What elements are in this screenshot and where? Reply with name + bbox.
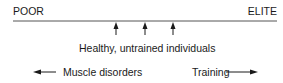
up-arrow-icon — [114, 22, 119, 35]
healthy-untrained-label: Healthy, untrained individuals — [79, 42, 215, 54]
right-arrow-icon — [226, 70, 258, 75]
muscle-disorders-label: Muscle disorders — [63, 66, 142, 78]
training-label: Training — [192, 66, 230, 78]
up-arrow-icon — [171, 22, 176, 35]
up-arrow-icon — [143, 22, 148, 35]
left-arrow-icon — [33, 70, 56, 75]
